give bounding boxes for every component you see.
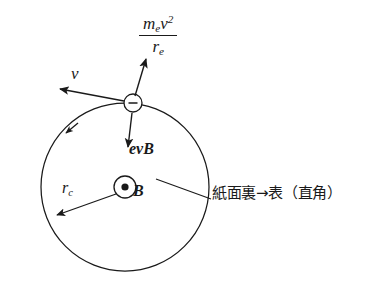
formula-numerator: mev2 [139, 14, 177, 36]
velocity-label: v [71, 65, 79, 82]
field-direction-annotation: 紙面裏→表（直角） [212, 186, 342, 201]
annotation-leader-line [156, 179, 211, 199]
radius-label: rc [62, 180, 73, 199]
formula-denominator: re [139, 36, 177, 57]
centripetal-force-arrow [135, 59, 146, 96]
magnetic-force-label: evB [129, 141, 154, 157]
magnetic-field-label: B [133, 183, 144, 199]
velocity-arrow [60, 89, 124, 101]
orbit-direction-arrow [66, 123, 78, 133]
diagram-canvas [0, 0, 384, 286]
centripetal-force-formula: mev2 re [139, 14, 177, 58]
physics-diagram-figure: mev2 re v evB rc B 紙面裏→表（直角） [0, 0, 384, 286]
field-out-of-page-dot-icon [121, 183, 128, 190]
